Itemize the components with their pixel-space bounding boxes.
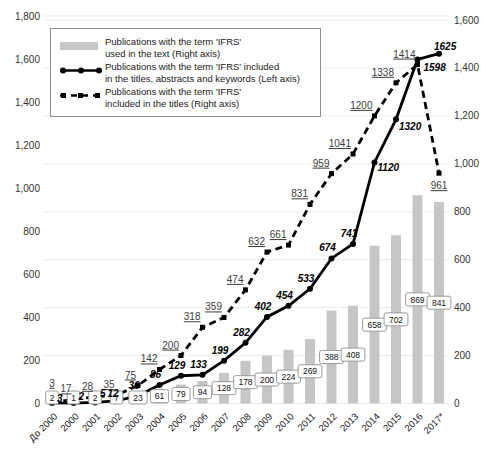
dashed-point-marker — [200, 325, 205, 330]
dashed-point-marker — [222, 315, 227, 320]
bar-label: 658 — [367, 320, 381, 330]
x-axis-tick: 2010 — [273, 411, 296, 434]
bar-series — [47, 195, 444, 403]
legend-dashed-line1: Publications with the term 'IFRS' — [105, 86, 241, 98]
x-axis-tick: 2011 — [295, 411, 317, 433]
solid-value-label: 1320 — [399, 121, 422, 132]
solid-value-label: 2 — [78, 391, 85, 402]
dashed-value-label: 359 — [205, 301, 222, 312]
dashed-value-label: 1041 — [329, 138, 352, 149]
dashed-line-series-swatch-icon — [59, 86, 105, 105]
dashed-point-marker — [179, 353, 184, 358]
solid-line-series-swatch-icon — [59, 61, 105, 80]
legend-entry-dashed-line: Publications with the term 'IFRS' includ… — [59, 86, 316, 109]
left-axis-labels: 02004006008001,0001,2001,4001,6001,800 — [15, 11, 40, 410]
legend-dashed-line2: included in the titles (Right axis) — [105, 98, 241, 110]
legend-entry-solid-line: Publications with the term 'IFRS' includ… — [59, 61, 316, 84]
solid-value-label: 12 — [107, 388, 119, 399]
right-axis-tick: 800 — [454, 206, 471, 217]
legend-bars-line1: Publications with the term 'IFRS' — [105, 36, 241, 48]
dashed-point-marker — [329, 171, 334, 176]
right-axis-tick: 200 — [454, 350, 471, 361]
bar-label: 61 — [155, 391, 165, 401]
solid-value-label: 1598 — [424, 62, 447, 73]
solid-value-label: 86 — [150, 369, 162, 380]
dashed-point-marker — [286, 243, 291, 248]
solid-point-marker — [221, 358, 227, 364]
bar-label: 269 — [303, 366, 317, 376]
x-axis-tick: 2009 — [252, 411, 275, 434]
dashed-value-label: 3 — [49, 378, 55, 389]
x-axis-tick: 2002 — [101, 411, 124, 434]
solid-point-marker — [243, 340, 249, 346]
solid-point-marker — [264, 314, 270, 320]
solid-point-marker — [157, 382, 163, 388]
dashed-point-marker — [265, 250, 270, 255]
x-axis-tick: 2005 — [166, 411, 189, 434]
dashed-value-label: 961 — [431, 180, 448, 191]
legend-solid-line1: Publications with the term 'IFRS' includ… — [105, 61, 300, 73]
x-axis-tick: 2013 — [338, 411, 361, 434]
legend-entry-bars: Publications with the term 'IFRS' used i… — [59, 36, 316, 59]
dashed-value-label: 831 — [291, 188, 308, 199]
dashed-value-label: 1200 — [350, 100, 373, 111]
dashed-value-label: 200 — [162, 340, 179, 351]
x-axis-tick: 2004 — [144, 411, 167, 434]
right-axis-tick: 1,600 — [454, 15, 479, 26]
solid-value-label: 133 — [190, 359, 207, 370]
dashed-value-label: 1414 — [393, 49, 416, 60]
solid-value-label: 674 — [319, 242, 336, 253]
solid-value-label: 5 — [100, 388, 106, 399]
dashed-point-marker — [372, 113, 377, 118]
solid-value-label: 3 — [57, 393, 63, 404]
left-axis-tick: 1,800 — [15, 11, 40, 22]
left-axis-tick: 800 — [23, 226, 40, 237]
solid-value-label: 199 — [212, 345, 229, 356]
right-axis-tick: 1,200 — [454, 110, 479, 121]
solid-value-label: 282 — [232, 327, 250, 338]
legend-entry-dashed-label: Publications with the term 'IFRS' includ… — [105, 86, 241, 109]
dashed-value-label: 959 — [313, 158, 330, 169]
solid-point-marker — [329, 255, 335, 261]
dashed-point-marker — [394, 80, 399, 85]
left-axis-tick: 1,600 — [15, 54, 40, 65]
chart-legend: Publications with the term 'IFRS' used i… — [50, 28, 321, 117]
bar-label: 23 — [133, 393, 143, 403]
bar-label: 94 — [198, 387, 208, 397]
legend-bars-line2: used in the text (Right axis) — [105, 48, 241, 60]
solid-point-marker — [350, 241, 356, 247]
solid-point-marker — [286, 303, 292, 309]
dashed-value-label: 318 — [184, 311, 201, 322]
dashed-value-label: 474 — [227, 274, 244, 285]
bar-label: 388 — [324, 352, 338, 362]
dashed-value-label: 1338 — [372, 67, 395, 78]
legend-entry-bars-label: Publications with the term 'IFRS' used i… — [105, 36, 241, 59]
solid-value-label: 36 — [128, 380, 140, 391]
solid-value-label: 129 — [169, 360, 186, 371]
solid-value-label: 533 — [298, 273, 315, 284]
right-axis-tick: 400 — [454, 302, 471, 313]
solid-value-label: 1120 — [378, 162, 400, 173]
x-axis-tick: 2008 — [230, 411, 253, 434]
left-axis-tick: 1,000 — [15, 183, 40, 194]
bar-label: 2 — [50, 393, 55, 403]
legend-solid-line2: in the titles, abstracts and keywords (L… — [105, 73, 300, 85]
solid-value-label: 741 — [341, 228, 358, 239]
bar-series-swatch-icon — [59, 36, 105, 55]
bar-label: 79 — [176, 389, 186, 399]
x-axis-labels: До 2000200020012002200320042005200620072… — [26, 410, 446, 443]
bar-label: 200 — [260, 375, 274, 385]
solid-value-label: 1625 — [434, 41, 457, 52]
left-axis-tick: 1,400 — [15, 97, 40, 108]
solid-point-marker — [200, 372, 206, 378]
bar-label: 2 — [93, 393, 98, 403]
bar-label: 841 — [432, 298, 446, 308]
x-axis-tick: 2012 — [316, 411, 339, 434]
bar-label: 1 — [71, 393, 76, 403]
ifrs-publications-chart: 02004006008001,0001,2001,4001,6001,80002… — [0, 0, 492, 459]
left-axis-tick: 1,200 — [15, 140, 40, 151]
right-axis-tick: 600 — [454, 254, 471, 265]
x-axis-tick: 2003 — [123, 411, 146, 434]
bar-label: 408 — [346, 350, 360, 360]
solid-value-label: 402 — [254, 301, 272, 312]
